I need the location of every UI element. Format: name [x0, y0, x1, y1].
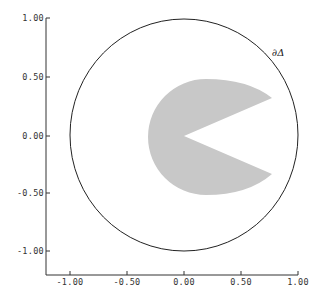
y-ticks: 1.00 0.50 0.00 -0.50 -1.00 [17, 13, 50, 256]
y-tick-label: 0.50 [22, 72, 44, 82]
x-ticks: -1.00 -0.50 0.00 0.50 1.00 [56, 271, 308, 287]
x-tick-label: -0.50 [113, 277, 140, 287]
shaded-region [148, 79, 272, 195]
plot-canvas: 1.00 0.50 0.00 -0.50 -1.00 -1.00 -0.50 0… [0, 0, 324, 298]
x-tick-label: -1.00 [56, 277, 83, 287]
y-tick-label: -1.00 [17, 246, 44, 256]
boundary-label: ∂Δ [272, 47, 284, 58]
x-tick-label: 0.00 [173, 277, 195, 287]
x-tick-label: 1.00 [287, 277, 309, 287]
y-tick-label: -0.50 [17, 188, 44, 198]
x-tick-label: 0.50 [230, 277, 252, 287]
y-tick-label: 1.00 [22, 13, 44, 23]
y-tick-label: 0.00 [22, 131, 44, 141]
